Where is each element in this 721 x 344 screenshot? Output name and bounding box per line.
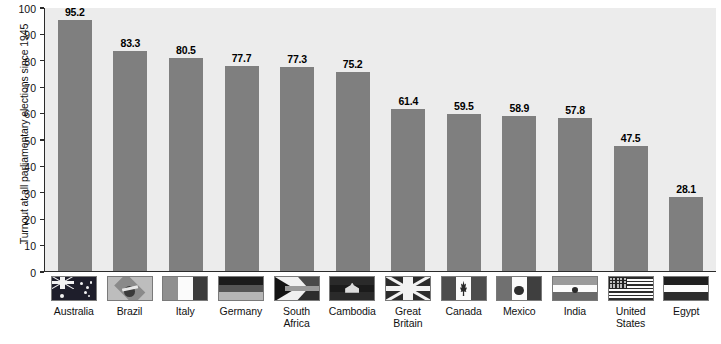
y-axis-tick-label: 60 <box>24 109 40 120</box>
bar-slot: 75.2 <box>325 8 381 271</box>
category-label: Cambodia <box>329 306 376 318</box>
category-label: Brazil <box>117 306 143 318</box>
y-axis-tick-label: 10 <box>24 241 40 252</box>
category-axis: AustraliaBrazilItalyGermanySouth AfricaC… <box>44 276 716 344</box>
category-label: South Africa <box>283 306 310 329</box>
bar-slot: 83.3 <box>103 8 159 271</box>
y-axis-tick-label: 30 <box>24 188 40 199</box>
y-axis-tick-label: 100 <box>18 3 40 14</box>
category-item: South Africa <box>269 276 325 344</box>
category-item: Australia <box>46 276 102 344</box>
y-axis-tick-label: 40 <box>24 162 40 173</box>
bar-slot: 59.5 <box>436 8 492 271</box>
bar-value-label: 80.5 <box>176 44 196 56</box>
bar-value-label: 77.3 <box>287 53 307 65</box>
y-axis-tick-label: 0 <box>30 267 40 278</box>
bar-value-label: 61.4 <box>398 95 418 107</box>
flag-india-icon <box>552 276 598 301</box>
category-label: Italy <box>176 306 195 318</box>
bar[interactable]: 57.8 <box>558 118 592 271</box>
bar[interactable]: 83.3 <box>113 51 147 271</box>
bar-slot: 58.9 <box>492 8 548 271</box>
flag-brazil-icon <box>107 276 153 301</box>
bar-series: 95.283.380.577.777.375.261.459.558.957.8… <box>45 8 716 271</box>
category-label: Great Britain <box>393 306 422 329</box>
bar-chart: Turnout at all parliamentary elections s… <box>0 0 721 344</box>
bar[interactable]: 77.7 <box>225 66 259 271</box>
bar-value-label: 28.1 <box>676 183 696 195</box>
category-label: United States <box>616 306 646 329</box>
plot-area: 95.283.380.577.777.375.261.459.558.957.8… <box>44 8 716 272</box>
bar[interactable]: 59.5 <box>447 114 481 271</box>
bar[interactable]: 47.5 <box>614 146 648 271</box>
category-item: Egypt <box>658 276 714 344</box>
flag-mexico-icon <box>496 276 542 301</box>
category-item: Italy <box>157 276 213 344</box>
bar-slot: 77.3 <box>269 8 325 271</box>
y-axis-tick-label: 50 <box>24 135 40 146</box>
plot-area-wrapper: 95.283.380.577.777.375.261.459.558.957.8… <box>44 8 716 272</box>
bar-value-label: 95.2 <box>65 6 85 18</box>
flag-south-africa-icon <box>274 276 320 301</box>
bar-value-label: 83.3 <box>121 37 141 49</box>
category-label: Egypt <box>673 306 699 318</box>
category-label: India <box>564 306 586 318</box>
bar-value-label: 75.2 <box>343 58 363 70</box>
bar[interactable]: 28.1 <box>669 197 703 271</box>
y-axis-ticks: 0102030405060708090100 <box>0 8 44 272</box>
bar-slot: 57.8 <box>547 8 603 271</box>
bar-slot: 61.4 <box>380 8 436 271</box>
category-label: Canada <box>445 306 481 318</box>
bar[interactable]: 77.3 <box>280 67 314 271</box>
category-item: Mexico <box>491 276 547 344</box>
flag-canada-icon <box>441 276 487 301</box>
flag-united-states-icon <box>608 276 654 301</box>
category-item: Cambodia <box>324 276 380 344</box>
category-item: Germany <box>213 276 269 344</box>
bar-value-label: 57.8 <box>565 104 585 116</box>
y-axis-tick-label: 70 <box>24 82 40 93</box>
bar-slot: 77.7 <box>214 8 270 271</box>
category-item: Great Britain <box>380 276 436 344</box>
category-label: Mexico <box>503 306 536 318</box>
y-axis-tick-label: 80 <box>24 56 40 67</box>
category-item: India <box>547 276 603 344</box>
y-axis-tick-label: 20 <box>24 214 40 225</box>
bar-slot: 95.2 <box>47 8 103 271</box>
bar[interactable]: 58.9 <box>502 116 536 271</box>
bar-slot: 47.5 <box>603 8 659 271</box>
flag-italy-icon <box>162 276 208 301</box>
category-item: United States <box>603 276 659 344</box>
bar[interactable]: 80.5 <box>169 58 203 271</box>
category-item: Canada <box>436 276 492 344</box>
y-axis-tick-label: 90 <box>24 30 40 41</box>
bar[interactable]: 61.4 <box>391 109 425 271</box>
bar-slot: 80.5 <box>158 8 214 271</box>
category-label: Germany <box>220 306 262 318</box>
flag-egypt-icon <box>663 276 709 301</box>
bar[interactable]: 95.2 <box>58 20 92 271</box>
category-label: Australia <box>54 306 94 318</box>
flag-germany-icon <box>218 276 264 301</box>
bar-value-label: 58.9 <box>510 102 530 114</box>
category-item: Brazil <box>102 276 158 344</box>
bar-value-label: 47.5 <box>621 132 641 144</box>
bar[interactable]: 75.2 <box>336 72 370 271</box>
flag-cambodia-icon <box>329 276 375 301</box>
flag-great-britain-icon <box>385 276 431 301</box>
bar-value-label: 59.5 <box>454 100 474 112</box>
bar-slot: 28.1 <box>658 8 714 271</box>
flag-australia-icon <box>51 276 97 301</box>
bar-value-label: 77.7 <box>232 52 252 64</box>
